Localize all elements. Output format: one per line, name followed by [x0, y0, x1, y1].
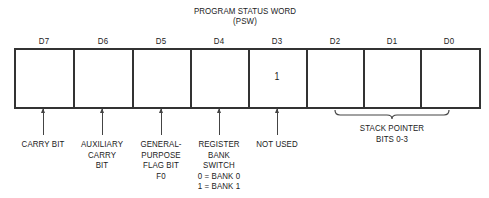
cell-divider: [420, 48, 422, 107]
annotation-not-used: NOT USED: [251, 139, 304, 150]
annotation-line: REGISTER: [193, 139, 246, 150]
annotation-line: 1 = BANK 1: [193, 181, 246, 192]
annotation-line: BANK: [193, 150, 246, 161]
bit-label-d3: D3: [259, 36, 294, 47]
arrow-up-icon: [161, 109, 162, 135]
annotation-line: CARRY BIT: [17, 139, 70, 150]
annotation-stack-pointer: STACK POINTER BITS 0-3: [357, 123, 427, 144]
annotation-register-bank: REGISTER BANK SWITCH 0 = BANK 0 1 = BANK…: [193, 139, 246, 192]
annotation-line: NOT USED: [251, 139, 304, 150]
bit-label-d7: D7: [26, 36, 61, 47]
bit-label-d5: D5: [143, 36, 178, 47]
bit-label-d4: D4: [201, 36, 236, 47]
arrow-up-icon: [102, 109, 103, 135]
annotation-line: BIT: [76, 160, 129, 171]
arrow-up-icon: [277, 109, 278, 135]
cell-divider: [190, 48, 192, 107]
bit-value-d3: 1: [259, 72, 294, 83]
bit-label-d0: D0: [431, 36, 466, 47]
brace-icon: [334, 110, 450, 120]
annotation-line: BITS 0-3: [357, 134, 427, 145]
diagram-title: PROGRAM STATUS WORD: [188, 6, 302, 17]
cell-divider: [132, 48, 134, 107]
bit-label-d1: D1: [374, 36, 409, 47]
cell-divider: [363, 48, 365, 107]
annotation-line: STACK POINTER: [357, 123, 427, 134]
annotation-line: GENERAL-: [135, 139, 188, 150]
cell-divider: [248, 48, 250, 107]
cell-divider: [73, 48, 75, 107]
annotation-auxiliary-carry: AUXILIARY CARRY BIT: [76, 139, 129, 171]
diagram-subtitle: (PSW): [188, 16, 302, 27]
arrow-up-icon: [43, 109, 44, 135]
annotation-carry-bit: CARRY BIT: [17, 139, 70, 150]
annotation-line: 0 = BANK 0: [193, 171, 246, 182]
annotation-line: PURPOSE: [135, 150, 188, 161]
cell-divider: [306, 48, 308, 107]
bit-label-d6: D6: [85, 36, 120, 47]
bit-label-d2: D2: [317, 36, 352, 47]
annotation-line: AUXILIARY: [76, 139, 129, 150]
annotation-line: SWITCH: [193, 160, 246, 171]
annotation-line: FLAG BIT: [135, 160, 188, 171]
annotation-line: CARRY: [76, 150, 129, 161]
arrow-up-icon: [219, 109, 220, 135]
annotation-line: F0: [135, 171, 188, 182]
annotation-flag-f0: GENERAL- PURPOSE FLAG BIT F0: [135, 139, 188, 181]
